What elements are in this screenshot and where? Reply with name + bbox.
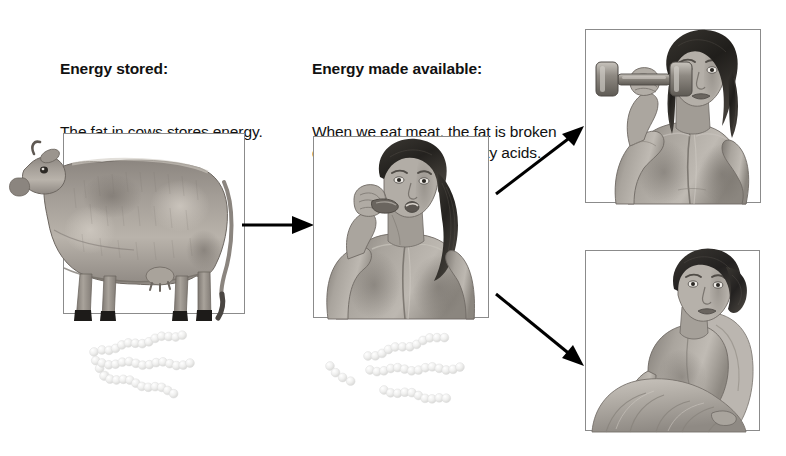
cow-icon xyxy=(64,134,244,313)
molecule-triglyceride xyxy=(78,330,258,410)
caption-energy-made-available-lead: Energy made available: xyxy=(312,58,567,79)
caption-energy-stored-lead: Energy stored: xyxy=(60,58,275,79)
panel-woman-exercising xyxy=(585,29,761,203)
woman-lifting-dumbbell-icon xyxy=(586,30,760,202)
arrow-to-resting-panel xyxy=(492,288,587,374)
woman-resting-icon xyxy=(586,251,759,430)
arrow-cow-to-person xyxy=(242,210,316,240)
panel-woman-eating xyxy=(313,136,489,318)
figure-canvas: Energy stored: The fat in cows stores en… xyxy=(0,0,786,456)
woman-eating-icon xyxy=(314,137,488,317)
panel-cow xyxy=(63,133,245,314)
molecule-glycerol-and-fatty-acids xyxy=(328,334,508,414)
arrow-to-exercise-panel xyxy=(492,120,587,200)
panel-woman-resting xyxy=(585,250,760,431)
